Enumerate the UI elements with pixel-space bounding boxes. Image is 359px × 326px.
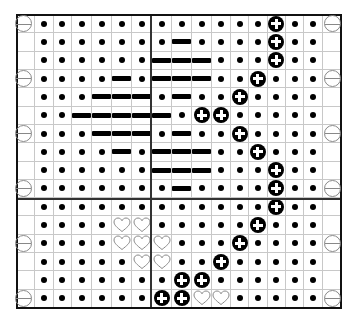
chart-cell <box>286 216 304 234</box>
dot-icon <box>99 21 105 27</box>
chart-cell <box>112 143 132 161</box>
chart-cell <box>17 70 35 88</box>
chart-cell <box>172 253 192 271</box>
chart-cell <box>286 143 304 161</box>
chart-cell <box>112 88 132 106</box>
edge-minus-circle-icon <box>324 125 341 142</box>
chart-cell <box>35 253 53 271</box>
chart-cell <box>92 216 112 234</box>
dash-icon <box>192 149 211 154</box>
chart-cell <box>72 216 92 234</box>
chart-cell <box>231 107 249 125</box>
dot-icon <box>218 149 224 155</box>
dot-icon <box>139 57 145 63</box>
dot-icon <box>79 167 85 173</box>
dot-icon <box>237 222 243 228</box>
dot-icon <box>139 204 145 210</box>
dot-icon <box>199 39 205 45</box>
dot-icon <box>179 240 185 246</box>
chart-cell <box>132 271 152 289</box>
chart-cell <box>54 33 72 51</box>
chart-cell <box>17 216 35 234</box>
chart-cell <box>17 88 35 106</box>
dot-icon <box>41 222 47 228</box>
chart-cell <box>192 15 212 33</box>
chart-cell <box>212 198 231 216</box>
chart-cell <box>268 235 286 253</box>
dot-icon <box>273 222 279 228</box>
dot-icon <box>292 259 298 265</box>
chart-cell <box>268 290 286 308</box>
chart-cell <box>323 52 341 70</box>
chart-cell <box>112 253 132 271</box>
chart-cell <box>286 162 304 180</box>
dot-icon <box>139 76 145 82</box>
dot-icon <box>237 277 243 283</box>
chart-cell <box>192 107 212 125</box>
dot-icon <box>41 57 47 63</box>
chart-cell <box>286 235 304 253</box>
chart-cell <box>72 162 92 180</box>
heart-icon <box>133 217 151 233</box>
chart-cell <box>304 198 322 216</box>
chart-cell <box>231 253 249 271</box>
dash-icon <box>152 168 171 173</box>
dot-icon <box>79 204 85 210</box>
chart-cell <box>323 271 341 289</box>
dot-icon <box>237 21 243 27</box>
dot-icon <box>218 167 224 173</box>
chart-cell <box>54 253 72 271</box>
chart-cell <box>231 15 249 33</box>
chart-cell <box>231 216 249 234</box>
chart-cell <box>323 290 341 308</box>
chart-cell <box>72 253 92 271</box>
dot-icon <box>310 259 316 265</box>
dot-icon <box>218 222 224 228</box>
chart-cell <box>212 162 231 180</box>
chart-cell <box>112 33 132 51</box>
dot-icon <box>119 204 125 210</box>
chart-cell <box>249 52 267 70</box>
chart-cell <box>231 33 249 51</box>
chart-cell <box>192 216 212 234</box>
dash-icon <box>92 113 111 118</box>
chart-cell <box>323 253 341 271</box>
edge-minus-circle-icon <box>15 180 32 197</box>
dot-icon <box>79 295 85 301</box>
dot-icon <box>255 21 261 27</box>
edge-minus-circle-icon <box>15 70 32 87</box>
chart-cell <box>35 125 53 143</box>
dash-icon <box>132 113 151 118</box>
dot-icon <box>59 259 65 265</box>
edge-minus-circle-icon <box>324 235 341 252</box>
chart-cell <box>92 162 112 180</box>
chart-cell <box>132 235 152 253</box>
chart-cell <box>132 216 152 234</box>
dot-icon <box>292 94 298 100</box>
chart-cell <box>286 198 304 216</box>
chart-cell <box>304 52 322 70</box>
dot-icon <box>273 131 279 137</box>
chart-cell <box>268 15 286 33</box>
chart-cell <box>286 290 304 308</box>
chart-cell <box>112 107 132 125</box>
chart-cell <box>323 88 341 106</box>
chart-cell <box>152 162 172 180</box>
dot-icon <box>179 21 185 27</box>
plus-circle-icon <box>232 126 248 142</box>
chart-cell <box>231 162 249 180</box>
dot-icon <box>79 57 85 63</box>
dot-icon <box>99 259 105 265</box>
chart-cell <box>54 180 72 198</box>
chart-cell <box>304 33 322 51</box>
chart-cell <box>304 180 322 198</box>
horizontal-divider <box>17 198 341 200</box>
dot-icon <box>119 21 125 27</box>
dot-icon <box>179 259 185 265</box>
chart-cell <box>192 253 212 271</box>
chart-cell <box>212 88 231 106</box>
chart-cell <box>249 180 267 198</box>
dash-icon <box>92 94 111 99</box>
chart-cell <box>212 107 231 125</box>
chart-cell <box>17 33 35 51</box>
